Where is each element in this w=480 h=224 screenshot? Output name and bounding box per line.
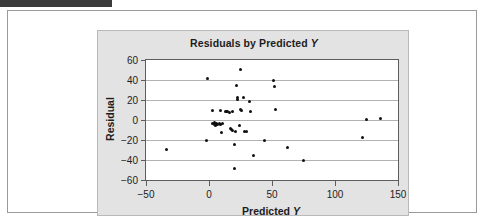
scatter-point [240, 109, 243, 112]
scatter-point [233, 143, 236, 146]
top-dark-bar [0, 0, 112, 7]
y-axis-tick-label: −40 [121, 155, 138, 166]
scatter-point [206, 77, 209, 80]
scatter-point [211, 109, 214, 112]
y-axis-tick [141, 140, 146, 141]
x-axis-tick [272, 180, 273, 186]
scatter-point [365, 118, 368, 121]
chart-title: Residuals by Predicted Y [98, 37, 410, 49]
chart-panel: Residuals by Predicted Y Residual 604020… [97, 30, 409, 216]
y-axis-tick-label: −60 [121, 175, 138, 186]
scatter-point [205, 139, 208, 142]
scatter-point [302, 159, 305, 162]
screenshot-root: Residuals by Predicted Y Residual 604020… [0, 0, 480, 224]
y-axis-tick [141, 80, 146, 81]
y-gridline [146, 100, 398, 101]
scatter-point [379, 117, 382, 120]
y-axis-title: Residual [104, 59, 118, 179]
y-gridline [146, 120, 398, 121]
y-axis-tick-label: 60 [127, 55, 138, 66]
scatter-point [231, 110, 234, 113]
y-axis-tick-label: 40 [127, 75, 138, 86]
page-frame: Residuals by Predicted Y Residual 604020… [7, 10, 477, 213]
scatter-point [252, 154, 255, 157]
scatter-point [272, 79, 275, 82]
y-gridline [146, 160, 398, 161]
scatter-point [249, 110, 252, 113]
scatter-point [245, 130, 248, 133]
scatter-point [165, 148, 168, 151]
x-axis-title-variable: Y [293, 205, 300, 217]
scatter-point [234, 130, 237, 133]
x-axis-tick [146, 180, 147, 186]
scatter-point [238, 124, 241, 127]
x-axis-tick-label: 100 [327, 189, 344, 200]
x-axis-tick [398, 180, 399, 186]
x-axis-title-text: Predicted [242, 205, 293, 217]
x-axis-tick [335, 180, 336, 186]
scatter-point [286, 146, 289, 149]
plot-area: 6040200−20−40−60−50050100150 [145, 59, 399, 181]
x-axis-tick-label: −50 [138, 189, 155, 200]
scatter-point [273, 85, 276, 88]
y-axis-tick-label: 20 [127, 95, 138, 106]
scatter-point [221, 122, 224, 125]
x-axis-title: Predicted Y [145, 205, 397, 217]
x-axis-tick-label: 150 [390, 189, 407, 200]
scatter-point [220, 131, 223, 134]
scatter-point [361, 136, 364, 139]
scatter-point [235, 84, 238, 87]
y-gridline [146, 140, 398, 141]
y-axis-tick [141, 120, 146, 121]
scatter-point [219, 109, 222, 112]
scatter-point [242, 96, 245, 99]
y-axis-tick [141, 160, 146, 161]
scatter-point [248, 100, 251, 103]
y-axis-tick [141, 100, 146, 101]
chart-title-text: Residuals by Predicted [190, 37, 311, 49]
y-axis-tick-label: 0 [132, 115, 138, 126]
x-axis-tick-label: 50 [266, 189, 277, 200]
y-axis-tick-label: −20 [121, 135, 138, 146]
chart-title-variable: Y [311, 37, 318, 49]
scatter-point [239, 68, 242, 71]
x-axis-tick-label: 0 [206, 189, 212, 200]
x-axis-tick [209, 180, 210, 186]
scatter-point [263, 139, 266, 142]
scatter-point [274, 108, 277, 111]
scatter-point [228, 111, 231, 114]
scatter-point [233, 167, 236, 170]
y-axis-tick [141, 60, 146, 61]
